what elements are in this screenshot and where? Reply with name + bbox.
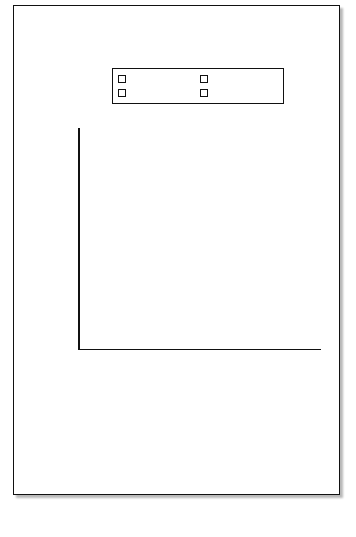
chart-legend <box>112 68 284 104</box>
legend-swatch-400-more <box>200 89 208 97</box>
legend-item-below-100 <box>118 75 196 83</box>
legend-swatch-below-100 <box>118 75 126 83</box>
legend-swatch-200-399 <box>200 75 208 83</box>
legend-item-100-199 <box>118 89 196 97</box>
chart-plot-area <box>78 128 321 350</box>
legend-swatch-100-199 <box>118 89 126 97</box>
legend-item-400-more <box>200 89 278 97</box>
x-axis-line <box>78 349 321 351</box>
y-axis-line <box>78 128 80 350</box>
legend-item-200-399 <box>200 75 278 83</box>
figure-container <box>13 5 340 495</box>
